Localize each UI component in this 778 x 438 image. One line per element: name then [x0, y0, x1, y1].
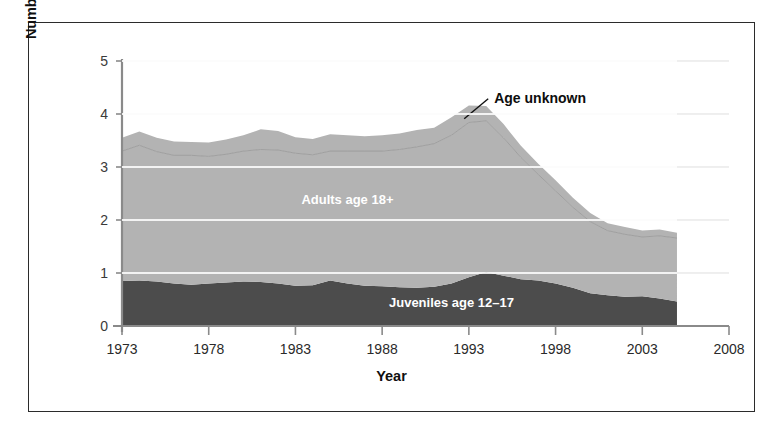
y-tick-label: 1 — [100, 265, 108, 281]
x-tick-labels-group: 19731978198319881993199820032008 — [106, 341, 744, 357]
x-tick-label: 1998 — [540, 341, 571, 357]
chart-plot-wrapper: Number of Incidents (Millions) 012345 19… — [29, 23, 754, 411]
y-tick-label: 3 — [100, 159, 108, 175]
y-tick-labels-group: 012345 — [100, 53, 108, 334]
x-tick-label: 2008 — [713, 341, 744, 357]
stacked-areas-group — [122, 106, 677, 326]
adults-series-label: Adults age 18+ — [301, 192, 394, 207]
y-tick-label: 4 — [100, 106, 108, 122]
x-tick-label: 1973 — [106, 341, 137, 357]
y-axis-title: Number of Incidents (Millions) — [23, 0, 39, 63]
x-tick-label: 1978 — [193, 341, 224, 357]
y-tick-label: 5 — [100, 53, 108, 69]
x-tick-label: 1988 — [367, 341, 398, 357]
x-tick-label: 1993 — [453, 341, 484, 357]
x-axis-title: Year — [29, 368, 754, 384]
x-tick-label: 1983 — [280, 341, 311, 357]
y-tick-label: 2 — [100, 212, 108, 228]
chart-figure-frame: Number of Incidents (Millions) 012345 19… — [28, 22, 755, 412]
area-chart-svg: 012345 19731978198319881993199820032008 … — [29, 23, 756, 413]
x-tick-label: 2003 — [627, 341, 658, 357]
y-tick-label: 0 — [100, 318, 108, 334]
age-unknown-callout-label: Age unknown — [494, 90, 586, 106]
juveniles-series-label: Juveniles age 12–17 — [389, 295, 514, 310]
